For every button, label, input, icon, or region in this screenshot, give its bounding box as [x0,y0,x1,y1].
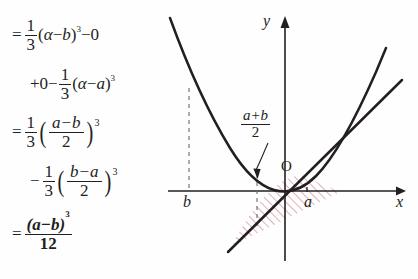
equation-line-4: − 1 3 ( b−a 2 ) 3 [30,163,118,199]
inner-fraction-numerator: b−a [67,163,101,182]
fraction-numerator: 1 [59,66,72,85]
screenshot-root: = 1 3 ( α − b ) 3 −0 +0− 1 3 ( α − a ) 3 [0,0,418,279]
equation-line-1: = 1 3 ( α − b ) 3 −0 [12,17,99,53]
midpoint-annotation: a+b 2 [240,108,271,140]
y-axis-label: y [263,12,270,30]
fraction-numerator: 1 [25,17,38,36]
fraction-denominator: 3 [43,182,56,200]
origin-label: O [281,158,292,175]
exponent-three-4: 3 [113,167,118,177]
fraction-denominator: 3 [25,36,38,54]
fraction-denominator: 3 [59,85,72,103]
result-numerator-expression: (a−b) [27,215,66,234]
result-exponent-three: 3 [65,209,70,219]
parabola-curve [170,18,386,191]
chord-line [228,80,402,252]
big-close-paren-4: ) [104,169,111,194]
y-axis [281,16,290,261]
variable-b-1: b [62,25,71,45]
inner-fraction-numerator: a−b [49,114,83,133]
big-close-paren-3: ) [86,120,93,145]
midpoint-numerator: a+b [241,108,270,125]
x-tick-label-b: b [183,193,191,211]
x-axis-label: x [396,193,403,211]
fraction-numerator: 1 [25,114,38,133]
fraction-one-third-4: 1 3 [43,163,56,199]
fraction-numerator: 1 [43,163,56,182]
coordinate-graph: y x O b a a+b 2 [168,0,418,279]
equation-line-5-result: = (a−b)3 12 [12,216,73,252]
fraction-one-third-3: 1 3 [25,114,38,150]
annotation-leader-line [256,143,268,170]
big-open-paren-3: ( [40,120,47,145]
equation-line-3: = 1 3 ( a−b 2 ) 3 [12,114,100,150]
inner-fraction-b-minus-a-over-2: b−a 2 [67,163,101,199]
result-fraction: (a−b)3 12 [25,216,72,252]
result-denominator: 12 [38,235,59,253]
alpha-symbol-1: α [44,25,53,45]
x-tick-label-a: a [304,193,312,211]
midpoint-fraction: a+b 2 [241,108,270,140]
equals-sign-1: = [12,25,22,45]
equation-line-2: +0− 1 3 ( α − a ) 3 [30,66,115,102]
alpha-symbol-2: α [78,74,87,94]
variable-a-2: a [96,74,105,94]
result-numerator: (a−b)3 [25,216,72,235]
inner-fraction-denominator: 2 [59,133,74,151]
exponent-three-1: 3 [76,25,81,34]
inner-fraction-denominator: 2 [77,182,92,200]
derivation-column: = 1 3 ( α − b ) 3 −0 +0− 1 3 ( α − a ) 3 [0,0,168,279]
graph-svg [168,0,418,279]
big-parenthesis-group-3: ( a−b 2 ) [38,114,94,150]
midpoint-denominator: 2 [250,125,262,141]
inner-fraction-a-minus-b-over-2: a−b 2 [49,114,83,150]
big-parenthesis-group-4: ( b−a 2 ) [56,163,112,199]
minus-sign-4: − [30,171,40,191]
equals-sign-3: = [12,122,22,142]
exponent-three-3: 3 [95,118,100,128]
big-open-paren-4: ( [58,169,65,194]
fraction-denominator: 3 [25,133,38,151]
trailing-minus-zero: −0 [81,25,99,45]
fraction-one-third-1: 1 3 [25,17,38,53]
equals-sign-5: = [12,224,22,244]
plus-zero-minus-2: +0− [30,74,58,94]
fraction-one-third-2: 1 3 [59,66,72,102]
exponent-three-2: 3 [111,74,116,83]
minus-sign-2: − [87,74,97,94]
hatched-region [232,176,342,246]
minus-sign-1: − [53,25,63,45]
